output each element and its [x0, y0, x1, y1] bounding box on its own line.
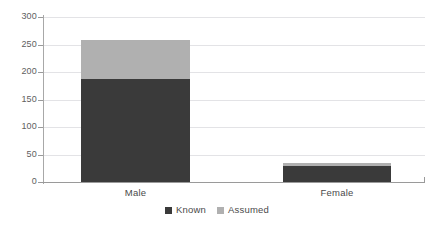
y-tick-0 [38, 182, 43, 183]
y-axis-label-100: 100 [3, 122, 37, 131]
legend-label-assumed: Assumed [228, 205, 269, 215]
chart-legend: Known Assumed [0, 205, 434, 215]
stacked-bar-chart: 300 250 200 150 100 50 0 Male Female Kno… [0, 0, 434, 228]
bar-segment-male-assumed[interactable] [81, 40, 190, 79]
y-axis-line [43, 15, 44, 184]
y-tick-100 [38, 127, 43, 128]
legend-item-assumed[interactable]: Assumed [217, 205, 269, 215]
y-tick-150 [38, 100, 43, 101]
y-axis-label-150: 150 [3, 95, 37, 104]
legend-swatch-known [165, 207, 172, 214]
legend-swatch-assumed [217, 207, 224, 214]
y-tick-200 [38, 72, 43, 73]
y-axis-label-300: 300 [3, 12, 37, 21]
y-tick-250 [38, 45, 43, 46]
x-axis-line [43, 182, 425, 183]
bar-group-female[interactable] [283, 163, 391, 182]
x-axis-label-male: Male [81, 187, 190, 198]
legend-item-known[interactable]: Known [165, 205, 206, 215]
bar-segment-male-known[interactable] [81, 79, 190, 182]
y-axis-label-250: 250 [3, 40, 37, 49]
y-tick-50 [38, 155, 43, 156]
bar-segment-female-known[interactable] [283, 166, 391, 182]
y-axis-label-0: 0 [3, 177, 37, 186]
y-tick-300 [38, 17, 43, 18]
x-axis-label-female: Female [283, 187, 391, 198]
x-axis-end-tick [424, 177, 425, 183]
y-axis-label-50: 50 [3, 150, 37, 159]
legend-label-known: Known [176, 205, 206, 215]
plot-area [43, 17, 425, 182]
gridline-300 [43, 17, 425, 18]
bar-group-male[interactable] [81, 40, 190, 182]
y-axis-labels: 300 250 200 150 100 50 0 [0, 0, 37, 228]
y-axis-label-200: 200 [3, 67, 37, 76]
